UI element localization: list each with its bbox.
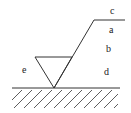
triangle-symbol	[35, 57, 72, 88]
label-a: a	[109, 25, 113, 35]
label-b: b	[106, 44, 111, 54]
surface-hatching	[12, 90, 118, 108]
symbol-drawing	[0, 0, 131, 113]
extension-line	[54, 20, 125, 88]
label-e: e	[22, 65, 26, 75]
label-c: c	[110, 6, 114, 16]
label-d: d	[104, 67, 109, 77]
roughness-symbol-diagram: c a b d e	[0, 0, 131, 113]
